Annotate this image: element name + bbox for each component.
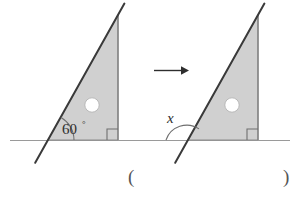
geometry-figure: 60 ° x ( ) [0,0,302,197]
figure-canvas: 60 ° x ( ) [0,0,302,197]
answer-close-paren: ) [283,166,289,188]
arrow-head [181,66,189,74]
translation-arrow [154,66,189,74]
left-angle-label: 60 [62,121,77,137]
left-angle-degree-symbol: ° [82,119,86,129]
right-angle-label: x [166,110,174,126]
right-triangle-hole [225,98,239,112]
left-triangle-hole [85,98,99,112]
answer-open-paren: ( [128,166,134,188]
left-triangle-group: 60 ° [35,4,124,163]
right-triangle-group: x [166,4,264,163]
